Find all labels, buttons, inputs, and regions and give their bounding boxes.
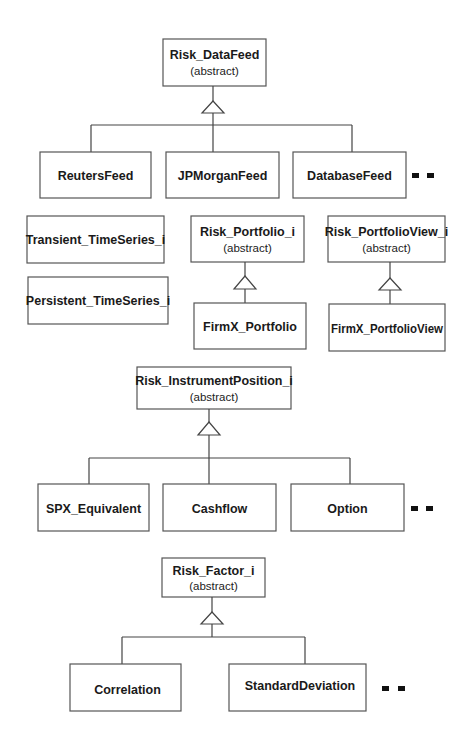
class-box [328,216,445,262]
class-name: StandardDeviation [245,679,355,693]
class-persistent-timeseries: Persistent_TimeSeries_i [26,277,170,324]
class-reutersfeed: ReutersFeed [40,152,151,198]
class-box [163,39,266,86]
timeseries-classes: Transient_TimeSeries_i Persistent_TimeSe… [26,216,170,324]
inheritance-triangle-icon [234,276,256,289]
factor-hierarchy: Risk_Factor_i (abstract) Correlation Sta… [70,558,405,711]
class-name: JPMorganFeed [178,169,268,183]
class-name: Risk_Portfolio_i [200,225,295,239]
class-stereotype: (abstract) [190,65,239,77]
class-option: Option [291,484,404,531]
class-jpmorganfeed: JPMorganFeed [166,152,279,198]
inheritance-triangle-icon [379,278,401,290]
class-name: Risk_DataFeed [170,48,260,62]
class-risk-factor: Risk_Factor_i (abstract) [162,558,265,597]
continuation-ellipsis-icon [411,506,433,511]
class-databasefeed: DatabaseFeed [293,152,406,198]
class-name: FirmX_PortfolioView [331,322,443,336]
class-cashflow: Cashflow [163,484,276,531]
class-stereotype: (abstract) [190,391,239,403]
class-standarddeviation: StandardDeviation [229,664,366,711]
datafeed-hierarchy: Risk_DataFeed (abstract) ReutersFeed JPM… [40,39,434,198]
class-risk-instrumentposition: Risk_InstrumentPosition_i (abstract) [135,367,293,409]
class-name: SPX_Equivalent [46,502,142,516]
continuation-ellipsis-icon [412,173,434,178]
class-spx-equivalent: SPX_Equivalent [38,484,149,531]
inheritance-triangle-icon [202,101,224,113]
inheritance-triangle-icon [198,422,220,435]
class-firmx-portfolioview: FirmX_PortfolioView [329,304,445,351]
class-name: FirmX_Portfolio [203,320,297,334]
instrumentposition-hierarchy: Risk_InstrumentPosition_i (abstract) SPX… [38,367,433,531]
class-stereotype: (abstract) [189,580,238,592]
class-box [191,216,304,262]
class-name: ReutersFeed [58,169,134,183]
class-name: Transient_TimeSeries_i [26,233,165,247]
portfolioview-hierarchy: Risk_PortfolioView_i (abstract) FirmX_Po… [325,216,448,351]
class-risk-portfolioview: Risk_PortfolioView_i (abstract) [325,216,448,262]
class-diagram: Risk_DataFeed (abstract) ReutersFeed JPM… [0,0,473,749]
continuation-ellipsis-icon [382,686,405,691]
class-risk-portfolio: Risk_Portfolio_i (abstract) [191,216,304,262]
class-firmx-portfolio: FirmX_Portfolio [194,303,306,349]
class-name: Option [327,502,367,516]
class-correlation: Correlation [70,664,181,711]
inheritance-triangle-icon [201,612,223,624]
class-name: Risk_PortfolioView_i [325,225,448,239]
class-name: Cashflow [192,502,248,516]
class-name: Risk_InstrumentPosition_i [135,374,293,388]
class-name: Risk_Factor_i [173,564,255,578]
class-name: DatabaseFeed [307,169,392,183]
class-stereotype: (abstract) [362,242,411,254]
class-name: Correlation [94,683,161,697]
portfolio-hierarchy: Risk_Portfolio_i (abstract) FirmX_Portfo… [191,216,306,349]
class-risk-datafeed: Risk_DataFeed (abstract) [163,39,266,86]
class-name: Persistent_TimeSeries_i [26,294,170,308]
class-stereotype: (abstract) [223,242,272,254]
class-transient-timeseries: Transient_TimeSeries_i [26,216,165,263]
